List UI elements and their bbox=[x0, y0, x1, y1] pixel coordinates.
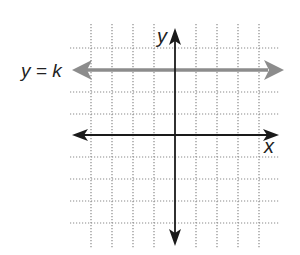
x-axis-label: x bbox=[264, 136, 274, 156]
line-y-equals-k bbox=[72, 60, 284, 80]
y-axis-label: y bbox=[157, 26, 167, 46]
y-axis bbox=[169, 28, 181, 246]
line-equation-label: y = k bbox=[21, 61, 62, 80]
coordinate-plane bbox=[0, 0, 300, 255]
